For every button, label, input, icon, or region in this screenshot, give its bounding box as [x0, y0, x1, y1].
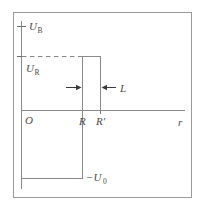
label-well-depth-subscript: 0 [103, 177, 107, 186]
label-well-depth: −U [86, 171, 102, 183]
label-x-axis: r [178, 116, 183, 128]
label-u-b-subscript: B [38, 26, 43, 35]
label-r-outer: R′ [95, 115, 106, 127]
label-barrier-width: L [119, 82, 126, 94]
figure-container: U B U R L O R R′ r −U 0 [0, 0, 206, 212]
figure-border [14, 13, 192, 198]
potential-energy-diagram: U B U R L O R R′ r −U 0 [0, 0, 206, 212]
width-arrow-right-head [102, 85, 108, 90]
width-arrow-left-head [76, 85, 82, 90]
label-u-r-subscript: R [35, 68, 40, 77]
label-origin: O [25, 114, 33, 126]
label-r-inner: R [78, 115, 86, 127]
